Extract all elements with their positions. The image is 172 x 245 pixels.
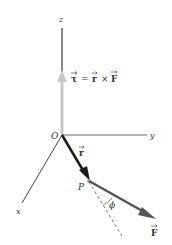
F-symbol-equation: F (111, 74, 118, 84)
F-vector (89, 181, 146, 213)
point-P-label: P (77, 182, 85, 192)
tau-symbol: τ (71, 74, 77, 84)
x-axis (22, 135, 62, 203)
r-vector-label: r (79, 148, 84, 158)
F-vector-label: F (151, 228, 158, 238)
z-axis-label: z (58, 15, 64, 24)
torque-equation: τ = r × F (71, 71, 118, 85)
r-symbol-equation: r (92, 74, 97, 84)
origin-label: O (51, 131, 59, 141)
torque-arrowhead-icon (57, 70, 67, 82)
equals-sign: = (81, 74, 89, 84)
x-axis-label: x (16, 207, 21, 216)
y-axis-label: y (149, 131, 155, 140)
torque-diagram: z τ = r × F y x O ϕ r P F (0, 0, 172, 245)
angle-phi-label: ϕ (109, 200, 115, 210)
times-sign: × (101, 74, 109, 84)
